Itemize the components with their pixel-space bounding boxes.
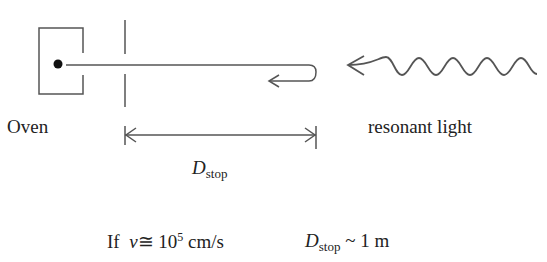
atom-trajectory xyxy=(66,65,316,81)
oven-label: Oven xyxy=(7,117,48,136)
resonant-light-label: resonant light xyxy=(368,117,472,136)
dstop-label: Dstop xyxy=(192,158,227,180)
velocity-condition: If v≅ 105 cm/s xyxy=(107,231,224,251)
dstop-result-value: 1 m xyxy=(360,230,389,251)
dstop-result-subscript: stop xyxy=(319,239,341,254)
atom-source-dot xyxy=(54,60,63,69)
dstop-result-symbol: D xyxy=(305,230,319,251)
dstop-subscript: stop xyxy=(206,166,228,181)
light-wave xyxy=(348,57,537,75)
atomic-beam-stopping-diagram: Oven resonant light Dstop If v≅ 105 cm/s… xyxy=(0,0,547,262)
dstop-result: Dstop ~ 1 m xyxy=(305,231,389,253)
velocity-symbol: v xyxy=(129,231,137,252)
approx-symbol: ≅ xyxy=(138,231,154,252)
if-word: If xyxy=(107,231,120,252)
tilde-symbol: ~ xyxy=(345,230,355,251)
dstop-symbol: D xyxy=(192,157,206,178)
velocity-unit: cm/s xyxy=(188,231,224,252)
velocity-base: 10 xyxy=(158,231,177,252)
velocity-exponent: 5 xyxy=(177,230,183,244)
